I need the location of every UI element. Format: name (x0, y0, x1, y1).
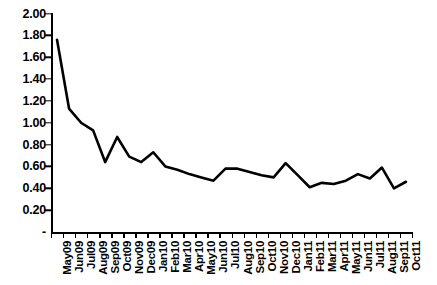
x-axis-tick-label: Mar11 (327, 241, 339, 272)
x-axis-tick-label: May11 (351, 241, 363, 274)
x-axis-tick-label: Jul11 (375, 241, 387, 268)
x-axis-tick-label: Aug09 (98, 241, 110, 275)
x-axis-tick-label: Nov10 (279, 241, 291, 274)
x-axis-tick-label: Jul10 (230, 241, 242, 269)
x-axis-tick-label: Dec10 (291, 241, 303, 273)
x-axis-tick-label: Sep09 (110, 241, 122, 273)
x-axis-tick-label: Jun09 (74, 241, 86, 273)
x-axis-tick-label: Aug10 (243, 241, 255, 275)
x-axis-tick-label: Apr11 (339, 241, 351, 271)
x-axis-tick-label: Sep10 (255, 241, 267, 273)
x-axis-tick-label: Nov09 (134, 241, 146, 274)
x-axis-tick-label: Sep11 (399, 241, 411, 273)
x-axis-labels: May09Jun09Jul09Aug09Sep09Oct09Nov09Dec09… (0, 0, 437, 285)
x-axis-tick-label: Oct10 (267, 241, 279, 271)
x-axis-tick-label: Aug11 (387, 241, 399, 274)
x-axis-tick-label: Oct11 (411, 241, 423, 271)
x-axis-tick-label: Jan11 (303, 241, 315, 271)
x-axis-tick-label: Feb11 (315, 241, 327, 272)
x-axis-tick-label: Jun11 (363, 241, 375, 272)
x-axis-tick-label: May09 (62, 241, 74, 275)
x-axis-tick-label: Oct09 (122, 241, 134, 271)
line-chart: 2.001.801.601.401.201.000.800.600.400.20… (0, 0, 437, 285)
x-axis-tick-label: Jul09 (86, 241, 98, 269)
